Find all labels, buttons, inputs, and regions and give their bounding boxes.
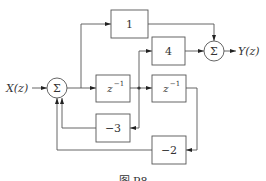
arrow-icon [186, 148, 192, 152]
arrow-icon [146, 86, 152, 90]
block-delay-2-base: z [162, 83, 169, 94]
block-gain-4-label: 4 [165, 45, 172, 58]
arrow-icon [90, 86, 96, 90]
summer-2-symbol: Σ [210, 45, 218, 58]
output-label: Y(z) [238, 45, 260, 58]
arrow-icon [230, 49, 236, 53]
block-delay-1-base: z [106, 83, 113, 94]
arrow-icon [146, 49, 152, 53]
arrow-icon [105, 22, 111, 26]
block-gain-minus-2-label: −2 [161, 144, 177, 157]
arrow-icon [55, 98, 59, 104]
figure-caption: 图 P8 [119, 175, 148, 181]
arrow-icon [60, 98, 64, 104]
block-delay-1-exp: −1 [114, 80, 124, 88]
summer-1-symbol: Σ [53, 82, 61, 95]
block-gain-1-label: 1 [126, 18, 133, 31]
arrow-icon [130, 126, 136, 130]
block-diagram: X(z) Σ 1 z −1 4 Σ Y(z) z −1 −3 [0, 0, 266, 181]
arrow-icon [41, 86, 47, 90]
input-label: X(z) [5, 82, 28, 95]
arrow-icon [198, 49, 204, 53]
arrow-icon [212, 35, 216, 41]
block-gain-minus-3-label: −3 [105, 122, 121, 135]
block-delay-2-exp: −1 [170, 80, 180, 88]
